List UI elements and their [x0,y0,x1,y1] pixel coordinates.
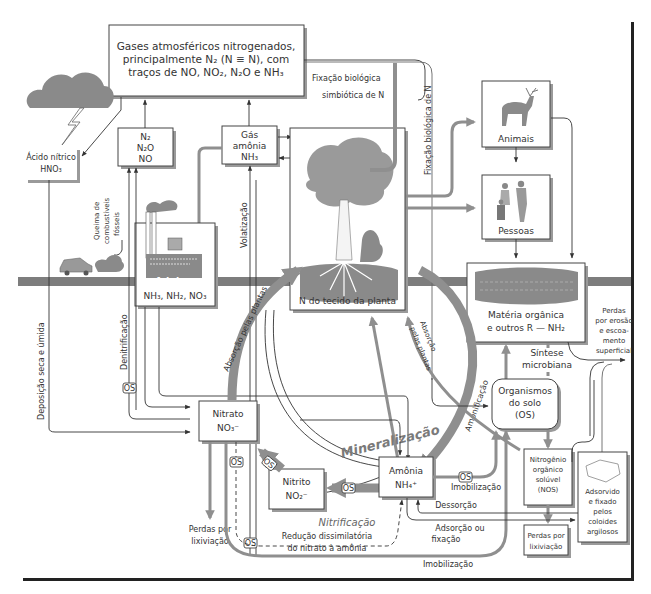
adsorption-label-1: Adsorção ou [435,524,484,533]
svg-text:pelos: pelos [593,508,612,516]
nh3-line-2: amônia [233,141,267,151]
fertilizer-title: Adubos [155,275,195,286]
svg-text:argilosos: argilosos [587,528,619,536]
arrow-animals-to-organic [551,118,572,258]
svg-text:Nitrogênio: Nitrogênio [530,456,566,464]
ammonium-line-2: NH₄⁺ [395,480,417,490]
ammonia-gas-box: Gás amônia NH₃ [222,126,280,167]
n2-line-2: N₂O [137,143,154,153]
svg-text:Perdas por: Perdas por [527,532,564,540]
atm-line-1: Gases atmosféricos nitrogenados, [117,40,296,52]
nitrogen-cycle-diagram: Gases atmosféricos nitrogenados, princip… [0,0,651,594]
line-nos-to-erosion [572,380,594,462]
os-tag-nitrification: OS [342,483,355,493]
svg-text:lixiviação: lixiviação [530,543,563,551]
atm-line-2: principalmente N₂ (N ≡ N), com [123,53,289,65]
people-label: Pessoas [498,226,534,236]
animals-label: Animais [498,134,534,144]
erosion-label: Perdas por erosão e escoa- mento superfi… [595,307,632,355]
car-icon [60,255,124,276]
nitrate-box: Nitrato NO₃⁻ [199,401,260,444]
organic-litter-icon [475,268,578,305]
svg-text:e escoa-: e escoa- [599,327,629,335]
nh3-line-3: NH₃ [241,152,259,162]
n2-line-1: N₂ [140,132,151,142]
nos-box: Nitrogênio orgânico solúvel (NOS) [524,449,575,508]
clay-colloids-box: Adsorvido e fixado pelos coloides argilo… [578,452,630,545]
soil-organisms-box: Organismos do solo (OS) [492,379,561,432]
svg-text:por erosão: por erosão [595,317,632,325]
immobilization-bottom-label: Imobilização [423,560,473,569]
svg-text:Adsorvido: Adsorvido [585,488,620,496]
denitrification-label: Denitrificação [120,314,129,370]
svg-text:orgânico: orgânico [533,466,563,474]
svg-text:mento: mento [603,337,626,345]
deposition-label: Deposição seca e úmida [37,322,46,420]
adsorption-label-2: fixação [432,535,461,544]
nitrate-line-1: Nitrato [212,409,244,419]
nitrite-line-2: NO₂⁻ [285,491,307,501]
svg-text:e fixado: e fixado [588,498,616,506]
atmospheric-gases-box: Gases atmosféricos nitrogenados, princip… [109,25,307,99]
os-tag-dnra: OS [230,457,243,467]
os-line-2: do solo [509,398,542,408]
frame-bottom-border [23,578,634,581]
os-tag-immobilization: OS [459,472,472,482]
plant-box: N do tecido da planta [290,128,408,313]
uptake-left-label: Absorção pelas plantas [222,285,269,373]
fossil-leader-line [114,240,122,255]
acid-line-1: Ácido nítrico [26,151,76,162]
organic-line-2: e outros R — NH₂ [487,323,565,333]
arrow-fertilizer-to-ammonium [159,307,408,460]
symbiotic-label-1: Fixação biológica [312,73,381,83]
dnra-label-1: Redução dissimilatória [282,531,373,541]
ammonium-line-1: Amônia [389,466,423,476]
volatilization-label: Volatização [240,202,249,248]
svg-text:OS: OS [343,484,354,493]
immobilization-top-label: Imobilização [451,483,501,492]
animals-box: Animais [482,81,553,150]
svg-text:OS: OS [124,384,135,393]
svg-text:fósseis: fósseis [113,212,121,236]
atm-line-3: traços de NO, NO₂, N₂O e NH₃ [128,66,284,78]
free-fixation-label: Fixação biológica de N [423,85,433,175]
svg-text:Perdas: Perdas [602,307,626,315]
arrow-fertilizer-to-nitrate [145,307,190,407]
nitrification-label: Nitrificação [319,517,376,528]
fertilizer-formula: NH₃, NH₂, NO₃ [143,291,206,301]
svg-text:combustíveis: combustíveis [103,197,111,244]
ammonium-box: Amônia NH₄⁺ [379,457,436,500]
nitrate-line-2: NO₃⁻ [217,423,239,433]
fertilizer-box: Adubos NH₃, NH₂, NO₃ [135,200,218,309]
os-line-3: (OS) [515,410,535,420]
fossil-fuel-label: Queima de combustíveis fósseis [93,197,121,244]
frame-right-border [631,22,634,580]
svg-text:OS: OS [460,473,471,482]
dnra-label-2: do nitrato à amônia [288,543,367,553]
synthesis-label-2: microbiana [522,360,572,370]
nitrite-line-1: Nitrito [283,477,311,487]
svg-text:lixiviação: lixiviação [191,537,229,546]
mineralization-label: Mineralização [339,422,441,461]
n2-line-3: NO [139,154,153,164]
leaching-right-box: Perdas por lixiviação [524,525,571,558]
plant-label: N do tecido da planta [299,296,396,306]
nitric-acid-box: Ácido nítrico HNO₃ [25,147,80,183]
svg-text:(NOS): (NOS) [538,486,559,494]
os-tag-denitrification: OS [123,383,136,393]
svg-text:OS: OS [231,458,242,467]
symbiotic-label-2: simbiótica de N [322,90,384,100]
desorption-label: Dessorção [435,501,477,510]
organic-matter-box: Matéria orgânica e outros R — NH₂ [467,263,588,345]
synthesis-label-1: Síntese [530,348,564,358]
os-tag-bottom: OS [244,538,257,548]
nh3-line-1: Gás [241,130,258,140]
acid-line-2: HNO₃ [40,165,62,174]
svg-text:Queima de: Queima de [93,202,101,240]
people-box: Pessoas [482,175,553,242]
svg-text:coloides: coloides [588,518,617,526]
os-line-1: Organismos [498,386,552,396]
nitrite-box: Nitrito NO₂⁻ [269,469,327,512]
organic-line-1: Matéria orgânica [488,310,564,320]
svg-text:solúvel: solúvel [536,476,561,484]
